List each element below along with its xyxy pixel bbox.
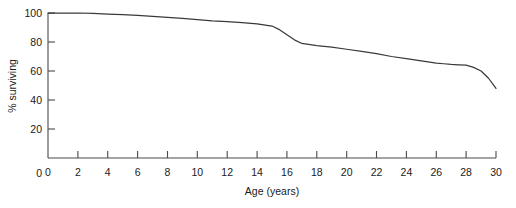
x-tick-label-10: 10 bbox=[191, 166, 203, 178]
y-tick-label-100: 100 bbox=[24, 7, 42, 19]
x-tick-label-26: 26 bbox=[430, 166, 442, 178]
y-axis-title: % surviving bbox=[6, 59, 18, 113]
survival-data-line bbox=[48, 13, 496, 88]
survival-chart: 100 80 60 40 20 0 % surviving bbox=[0, 0, 516, 208]
x-tick-labels: 0 2 4 6 8 10 12 14 16 18 20 22 24 26 28 … bbox=[45, 166, 502, 178]
x-tick-label-6: 6 bbox=[135, 166, 141, 178]
y-tick-label-20: 20 bbox=[30, 123, 42, 135]
x-tick-label-14: 14 bbox=[251, 166, 263, 178]
y-axis-group: 100 80 60 40 20 0 % surviving bbox=[6, 7, 55, 179]
x-tick-label-20: 20 bbox=[341, 166, 353, 178]
x-tick-label-18: 18 bbox=[311, 166, 323, 178]
y-tick-labels: 100 80 60 40 20 0 bbox=[24, 7, 42, 179]
y-tick-label-40: 40 bbox=[30, 94, 42, 106]
y-tick-label-80: 80 bbox=[30, 36, 42, 48]
y-tick-marks bbox=[48, 13, 55, 129]
x-axis-group: 0 2 4 6 8 10 12 14 16 18 20 22 24 26 28 … bbox=[45, 151, 502, 197]
x-tick-label-12: 12 bbox=[221, 166, 233, 178]
x-tick-marks bbox=[78, 151, 496, 158]
x-tick-label-24: 24 bbox=[401, 166, 413, 178]
chart-svg: 100 80 60 40 20 0 % surviving bbox=[0, 0, 516, 208]
x-axis-title: Age (years) bbox=[245, 185, 299, 197]
x-tick-label-2: 2 bbox=[75, 166, 81, 178]
y-tick-label-60: 60 bbox=[30, 65, 42, 77]
x-tick-label-0: 0 bbox=[45, 166, 51, 178]
x-tick-label-16: 16 bbox=[281, 166, 293, 178]
x-tick-label-22: 22 bbox=[371, 166, 383, 178]
x-tick-label-28: 28 bbox=[460, 166, 472, 178]
x-tick-label-4: 4 bbox=[105, 166, 111, 178]
x-tick-label-30: 30 bbox=[490, 166, 502, 178]
x-tick-label-8: 8 bbox=[165, 166, 171, 178]
y-tick-label-0: 0 bbox=[36, 167, 42, 179]
